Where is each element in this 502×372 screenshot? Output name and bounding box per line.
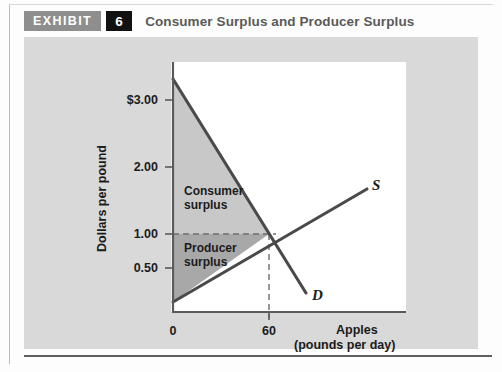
producer-surplus-line2: surplus: [184, 255, 227, 269]
consumer-surplus-line1: Consumer: [184, 184, 243, 198]
x-axis-title: Apples (pounds per day): [336, 323, 395, 353]
y-tick-label-3: $3.00: [98, 93, 158, 107]
y-tick-label-1: 1.00: [98, 227, 158, 241]
x-tick-label-60: 60: [249, 324, 289, 338]
supply-demand-chart: [24, 37, 478, 349]
demand-curve-label: D: [312, 287, 323, 304]
consumer-surplus-label: Consumer surplus: [184, 184, 243, 212]
producer-surplus-line1: Producer: [184, 241, 237, 255]
exhibit-page: EXHIBIT 6 Consumer Surplus and Producer …: [0, 0, 502, 372]
frame-top-border: [9, 4, 493, 5]
chart-stage: Dollars per pound $3.00 2.00 1.00 0.50 0…: [24, 37, 478, 349]
x-tick-label-0: 0: [153, 324, 193, 338]
x-axis-title-main: Apples: [336, 323, 378, 337]
bottom-rule: [24, 355, 492, 357]
frame-left-border: [9, 4, 10, 364]
x-axis-title-sub: (pounds per day): [294, 338, 395, 353]
exhibit-title: Consumer Surplus and Producer Surplus: [145, 11, 414, 31]
exhibit-number-badge: 6: [106, 11, 132, 31]
exhibit-tag: EXHIBIT: [24, 11, 101, 31]
supply-curve-label: S: [372, 177, 380, 194]
y-tick-label-0-50: 0.50: [98, 261, 158, 275]
consumer-surplus-line2: surplus: [184, 198, 227, 212]
exhibit-header: EXHIBIT 6 Consumer Surplus and Producer …: [24, 11, 414, 31]
y-tick-label-2: 2.00: [98, 160, 158, 174]
producer-surplus-label: Producer surplus: [184, 241, 237, 269]
chart-panel: Dollars per pound $3.00 2.00 1.00 0.50 0…: [24, 37, 478, 349]
